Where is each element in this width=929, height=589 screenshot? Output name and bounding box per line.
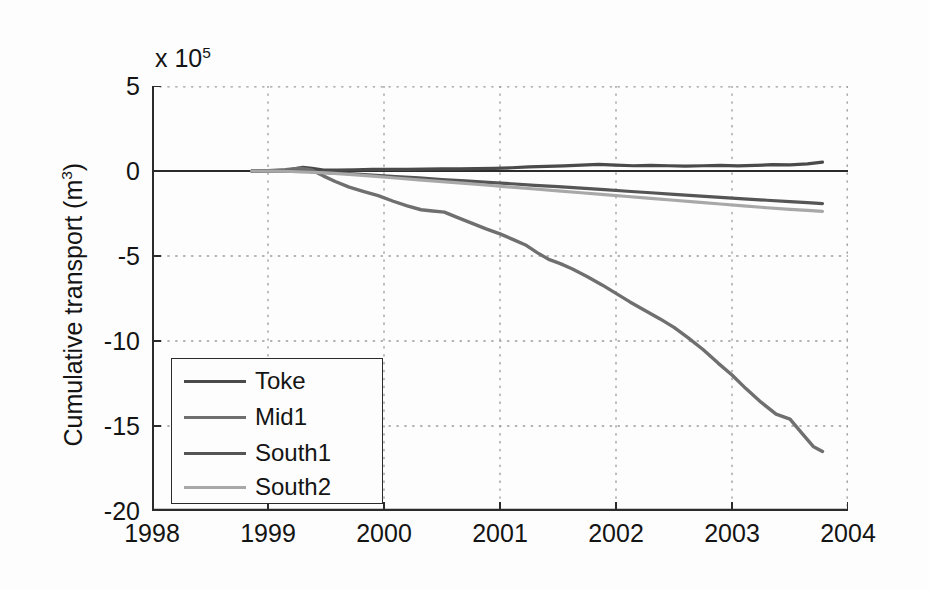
- legend-swatch-south2: [184, 486, 246, 489]
- x-tick-label: 2003: [704, 519, 760, 548]
- data-series-south1: [252, 171, 823, 204]
- legend-item-south2[interactable]: South2: [172, 469, 382, 505]
- legend-item-mid1[interactable]: Mid1: [172, 399, 382, 435]
- y-tick-label: -10: [104, 327, 140, 356]
- legend-item-toke[interactable]: Toke: [172, 363, 382, 399]
- y-axis-label-base: Cumulative transport (m: [59, 180, 87, 447]
- x-tick-label: 2002: [588, 519, 644, 548]
- legend-item-south1[interactable]: South1: [172, 435, 382, 471]
- exponent-power: 5: [202, 44, 211, 61]
- chart-legend: TokeMid1South1South2: [171, 358, 383, 504]
- exponent-prefix: x 10: [155, 44, 202, 72]
- legend-label: Toke: [255, 369, 306, 393]
- x-tick-label: 2000: [356, 519, 412, 548]
- x-tick-label: 2001: [472, 519, 528, 548]
- legend-label: South1: [255, 441, 331, 465]
- chart-figure: x 105 Cumulative transport (m3) 50-5-10-…: [0, 0, 929, 589]
- y-tick-label: 5: [126, 72, 140, 101]
- legend-swatch-mid1: [184, 416, 246, 419]
- data-series-south2: [252, 171, 823, 211]
- legend-swatch-toke: [184, 380, 246, 383]
- y-axis-exponent-multiplier: x 105: [155, 44, 211, 73]
- x-tick-label: 2004: [820, 519, 876, 548]
- x-tick-label: 1999: [240, 519, 296, 548]
- legend-label: Mid1: [255, 405, 307, 429]
- y-axis-label: Cumulative transport (m3): [58, 95, 87, 515]
- x-tick-label: 1998: [124, 519, 180, 548]
- y-axis-label-close: ): [59, 163, 87, 171]
- y-tick-label: 0: [126, 157, 140, 186]
- y-tick-label: -5: [118, 242, 140, 271]
- data-series-toke: [252, 162, 823, 171]
- legend-swatch-south1: [184, 452, 246, 455]
- y-tick-label: -15: [104, 412, 140, 441]
- legend-label: South2: [255, 475, 331, 499]
- y-axis-label-superscript: 3: [58, 171, 75, 180]
